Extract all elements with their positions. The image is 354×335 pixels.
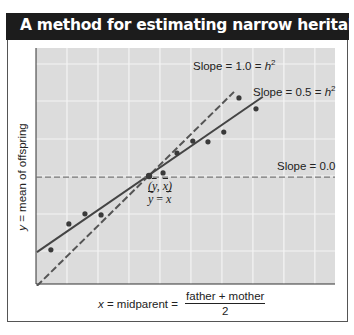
mean-point-equality: y = x xyxy=(148,193,172,206)
data-point xyxy=(236,95,241,100)
y-var: y xyxy=(16,225,28,231)
y-text: = mean of offspring xyxy=(16,123,28,225)
slope-1-label: Slope = 1.0 = h2 xyxy=(193,58,275,72)
fraction-denominator: 2 xyxy=(185,304,265,317)
data-point xyxy=(82,211,87,216)
data-point xyxy=(205,139,210,144)
slope-1-text: Slope = 1.0 = xyxy=(193,60,265,72)
x-text: = midparent = xyxy=(104,298,181,310)
x-label-left: x = midparent = xyxy=(98,298,181,310)
slope-05-sup: 2 xyxy=(331,84,335,93)
mean-point-label: (y, x) y = x xyxy=(148,180,172,206)
data-point xyxy=(160,170,165,175)
fraction-numerator: father + mother xyxy=(185,290,265,304)
data-point xyxy=(190,138,195,143)
slope-0-label: Slope = 0.0 xyxy=(277,160,336,172)
x-axis-label: x = midparent = father + mother 2 xyxy=(98,290,265,317)
slope-1-sup: 2 xyxy=(271,58,275,67)
data-point xyxy=(98,212,103,217)
slope-05-text: Slope = 0.5 = xyxy=(253,86,325,98)
midparent-fraction: father + mother 2 xyxy=(185,290,265,317)
data-point xyxy=(66,221,71,226)
data-point xyxy=(48,247,53,252)
data-point xyxy=(221,129,226,134)
data-point xyxy=(174,150,179,155)
slope-0-text: Slope = 0.0 xyxy=(277,160,336,172)
data-point xyxy=(253,106,258,111)
y-axis-label: y = mean of offspring xyxy=(16,123,28,231)
slope-05-label: Slope = 0.5 = h2 xyxy=(253,84,335,98)
